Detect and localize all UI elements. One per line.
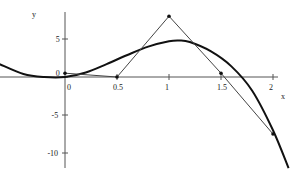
series [0, 14, 289, 168]
y-axis-label: y [32, 10, 36, 19]
axes [0, 12, 278, 168]
control-point-marker [63, 71, 67, 75]
control-point-marker [115, 75, 119, 79]
x-tick-label: 2 [269, 83, 273, 92]
chart: 00.511.52 50-5-10 x y [0, 0, 304, 178]
control-point-marker [219, 71, 223, 75]
y-tick-label: -5 [52, 111, 59, 120]
x-tick-label: 0.5 [113, 83, 123, 92]
x-tick-label: 1.5 [217, 83, 227, 92]
y-tick-label: 5 [56, 35, 60, 44]
control-point-marker [271, 132, 275, 136]
control-point-marker [167, 14, 171, 18]
curve-line [0, 40, 289, 168]
x-tick-label: 1 [165, 83, 169, 92]
x-axis-label: x [281, 92, 285, 101]
x-tick-label: 0 [67, 83, 71, 92]
y-tick-label: -10 [47, 149, 58, 158]
